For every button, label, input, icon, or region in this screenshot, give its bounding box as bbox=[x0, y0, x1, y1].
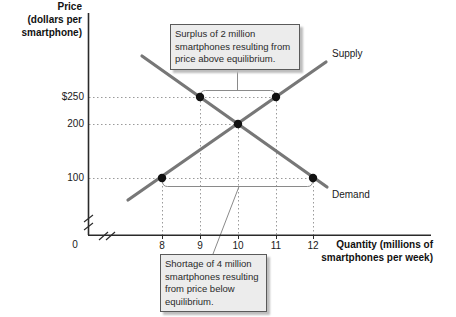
point-supply-8-100 bbox=[158, 174, 166, 182]
shortage-callout: Shortage of 4 million smartphones result… bbox=[160, 254, 267, 312]
supply-curve-label: Supply bbox=[332, 48, 363, 59]
x-axis-title-line2: smartphones per week) bbox=[296, 251, 433, 264]
x-tick-12: 12 bbox=[301, 240, 325, 251]
y-axis-title-line1: Price bbox=[0, 0, 82, 13]
y-axis-title: Price (dollars per smartphone) bbox=[0, 0, 82, 39]
y-tick-200: 200 bbox=[24, 118, 84, 129]
y-tick-100: 100 bbox=[24, 172, 84, 183]
y-tick-250: $250 bbox=[24, 91, 84, 102]
x-tick-11: 11 bbox=[264, 240, 288, 251]
x-tick-10: 10 bbox=[226, 240, 250, 251]
demand-curve bbox=[142, 56, 327, 187]
point-demand-12-100 bbox=[309, 174, 317, 182]
point-equilibrium-10-200 bbox=[234, 120, 242, 128]
supply-demand-chart: Price (dollars per smartphone) Quantity … bbox=[0, 0, 456, 317]
demand-curve-label: Demand bbox=[332, 189, 370, 200]
surplus-brace bbox=[201, 91, 276, 96]
y-axis-title-line2: (dollars per bbox=[0, 13, 82, 26]
x-tick-8: 8 bbox=[150, 240, 174, 251]
guide-lines bbox=[89, 97, 314, 235]
y-axis-title-line3: smartphone) bbox=[0, 26, 82, 39]
x-tick-9: 9 bbox=[188, 240, 212, 251]
point-demand-9-250 bbox=[196, 93, 204, 101]
supply-curve bbox=[128, 62, 326, 200]
surplus-callout: Surplus of 2 million smartphones resulti… bbox=[170, 24, 300, 70]
data-points bbox=[158, 93, 317, 182]
point-supply-11-250 bbox=[272, 93, 280, 101]
x-tick-0: 0 bbox=[63, 239, 87, 250]
shortage-brace bbox=[163, 181, 313, 187]
